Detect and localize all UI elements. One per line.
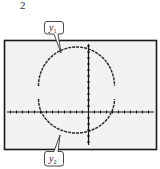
- calculator-graph: y1 y2: [0, 0, 160, 169]
